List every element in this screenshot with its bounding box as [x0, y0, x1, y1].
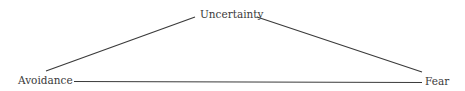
edge-avoidance-uncertainty — [46, 17, 195, 71]
node-uncertainty: Uncertainty — [200, 9, 263, 20]
edge-uncertainty-fear — [257, 17, 422, 72]
edge-avoidance-fear — [74, 82, 422, 83]
node-avoidance: Avoidance — [18, 75, 73, 86]
node-fear: Fear — [425, 76, 449, 87]
triangle-diagram: Uncertainty Avoidance Fear — [0, 0, 465, 91]
